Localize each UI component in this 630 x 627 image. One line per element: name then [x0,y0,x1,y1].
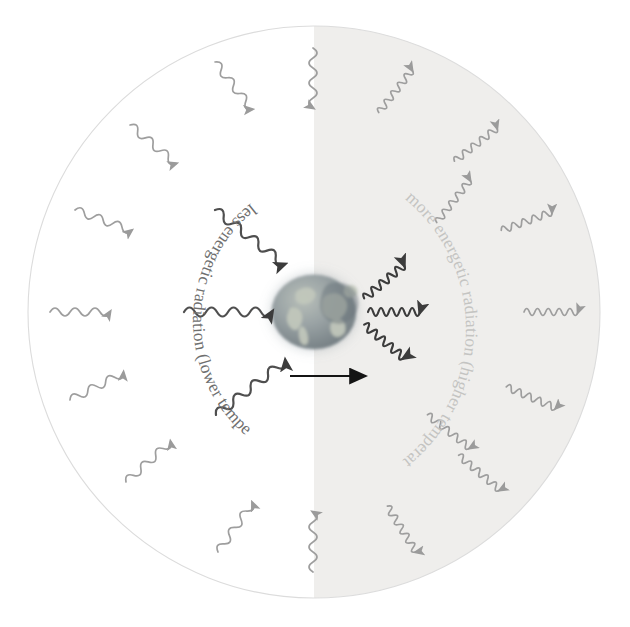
radiation-balance-figure: derthent invels of IRe called thete the … [0,0,630,627]
earth-globe [264,267,364,357]
diagram-canvas: less energetic radiation (lower temperat… [0,0,630,627]
